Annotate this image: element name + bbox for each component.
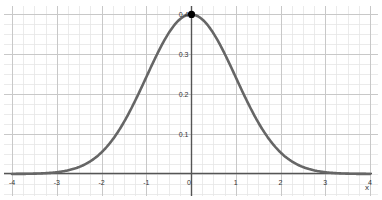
- peak-point[interactable]: [188, 11, 195, 18]
- x-tick-label: 3: [323, 179, 327, 186]
- normal-distribution-chart: -4-3-2-101234 0.40.10.20.3 x: [0, 0, 382, 200]
- x-tick-label: -3: [54, 179, 60, 186]
- x-tick-label: -1: [143, 179, 149, 186]
- x-tick-label: 2: [279, 179, 283, 186]
- x-tick-label: -4: [9, 179, 15, 186]
- x-axis-label: x: [365, 183, 369, 192]
- y-tick-label: 0.1: [179, 131, 189, 138]
- y-tick-label: 0.3: [179, 51, 189, 58]
- y-tick-label: 0.2: [179, 91, 189, 98]
- x-tick-labels: -4-3-2-101234: [9, 179, 372, 186]
- x-tick-label: 0: [187, 179, 191, 186]
- x-tick-label: 1: [234, 179, 238, 186]
- y-tick-label: 0.4: [179, 11, 189, 18]
- data-points: [188, 11, 195, 18]
- x-tick-label: -2: [98, 179, 104, 186]
